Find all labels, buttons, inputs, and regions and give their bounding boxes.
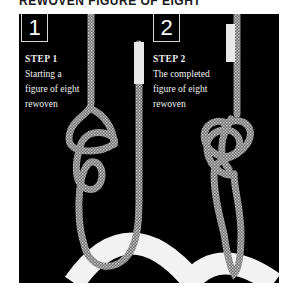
- rope-label-2: [226, 24, 235, 62]
- knot-photo: 1 2 STEP 1 Starting a figure of eight re…: [19, 14, 279, 283]
- step-2-line-2: figure of eight: [153, 82, 210, 97]
- step-1-heading: STEP 1: [25, 52, 79, 67]
- page-title: REWOVEN FIGURE OF EIGHT: [19, 0, 201, 8]
- step-2-line-1: The completed: [153, 67, 210, 82]
- rope-label-1: [134, 42, 144, 84]
- rope-step-1: [69, 14, 139, 266]
- step-number-badge-2: 2: [153, 14, 180, 42]
- step-1-line-3: rewoven: [25, 97, 79, 112]
- step-1-caption: STEP 1 Starting a figure of eight rewove…: [25, 52, 79, 112]
- step-2-heading: STEP 2: [153, 52, 210, 67]
- step-2-caption: STEP 2 The completed figure of eight rew…: [153, 52, 210, 112]
- step-2-line-3: rewoven: [153, 97, 210, 112]
- step-1-line-2: figure of eight: [25, 82, 79, 97]
- step-number-badge-1: 1: [21, 14, 48, 42]
- step-1-line-1: Starting a: [25, 67, 79, 82]
